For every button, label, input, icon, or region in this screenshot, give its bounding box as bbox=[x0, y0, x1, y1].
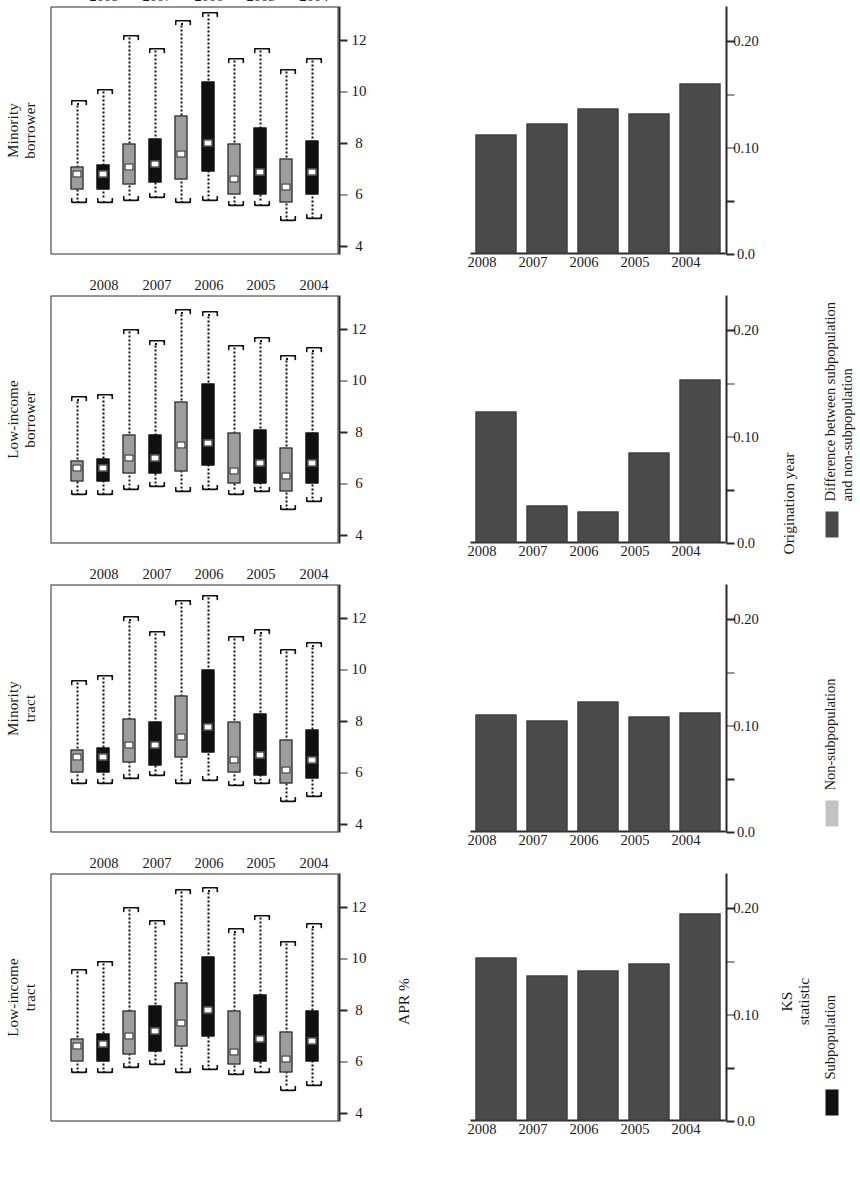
bar-year-label-2008: 2008 bbox=[467, 254, 496, 271]
whisker-cap-low bbox=[96, 489, 113, 495]
median-marker bbox=[176, 150, 185, 157]
median-marker bbox=[307, 459, 316, 466]
boxplot-non-subpopulation-2005 bbox=[227, 6, 240, 254]
box-axis-tick bbox=[339, 91, 347, 93]
bar-axis-tick bbox=[726, 831, 734, 833]
panel-frame bbox=[50, 584, 338, 832]
boxplot-panel-low-income-tract: Low-incometract1210864200420052006200720… bbox=[50, 873, 338, 1121]
panel-title-minority-borrower: Minorityborrower bbox=[4, 6, 38, 254]
whisker-cap-low bbox=[227, 780, 244, 786]
box-axis-tick bbox=[339, 617, 347, 619]
bar-axis-tick bbox=[726, 200, 734, 202]
whisker-cap-high bbox=[96, 674, 113, 680]
boxplot-non-subpopulation-2007 bbox=[122, 295, 135, 543]
box-axis-tick bbox=[339, 328, 347, 330]
bar-year-label-2005: 2005 bbox=[620, 832, 649, 849]
whisker-cap-high bbox=[148, 630, 165, 636]
bar-year-label-2006: 2006 bbox=[569, 832, 598, 849]
bar-axis-line bbox=[725, 295, 727, 543]
ks-axis-title: KSstatistic bbox=[777, 877, 811, 1125]
whisker-cap-high bbox=[305, 922, 322, 928]
bar-year-label-2007: 2007 bbox=[518, 1121, 547, 1138]
boxplot-subpopulation-2005 bbox=[253, 6, 266, 254]
median-marker bbox=[124, 454, 133, 461]
whisker-cap-high bbox=[122, 34, 139, 40]
box-iqr bbox=[174, 115, 187, 179]
year-label-2007: 2007 bbox=[142, 277, 171, 294]
box-iqr bbox=[201, 81, 214, 171]
apr-axis-title: APR % bbox=[394, 877, 411, 1125]
box-iqr bbox=[253, 127, 266, 194]
box-axis-tick bbox=[339, 380, 347, 382]
origination-year-axis-title: Origination year bbox=[779, 403, 796, 603]
median-marker bbox=[203, 139, 212, 146]
year-label-2008: 2008 bbox=[89, 0, 118, 5]
boxplot-non-subpopulation-2004 bbox=[279, 295, 292, 543]
bar-axis-tick-label: 0.0 bbox=[736, 1113, 754, 1130]
bar-2004 bbox=[679, 83, 720, 253]
whisker-cap-high bbox=[122, 615, 139, 621]
whisker-cap-high bbox=[96, 961, 113, 967]
bar-panel-low-income-tract: 0.00.100.2020042005200620072008 bbox=[470, 873, 725, 1121]
boxplot-subpopulation-2007 bbox=[148, 6, 161, 254]
bar-year-label-2006: 2006 bbox=[569, 543, 598, 560]
whisker-cap-low bbox=[96, 778, 113, 784]
whisker-cap-high bbox=[201, 886, 218, 892]
boxplot-subpopulation-2005 bbox=[253, 295, 266, 543]
median-marker bbox=[307, 1037, 316, 1044]
median-marker bbox=[98, 753, 107, 760]
year-label-2004: 2004 bbox=[299, 277, 328, 294]
whisker-cap-high bbox=[279, 940, 296, 946]
bar-2005 bbox=[628, 452, 669, 542]
box-axis-tick-label: 10 bbox=[351, 950, 366, 967]
box-iqr bbox=[253, 713, 266, 775]
whisker-cap-low bbox=[253, 486, 270, 492]
whisker-cap-low bbox=[174, 197, 191, 203]
box-axis-tick-label: 4 bbox=[355, 527, 363, 544]
median-marker bbox=[307, 756, 316, 763]
bar-2006 bbox=[577, 511, 618, 542]
whisker-cap-low bbox=[70, 778, 87, 784]
bar-2007 bbox=[526, 123, 567, 253]
box-iqr bbox=[174, 982, 187, 1046]
year-label-2005: 2005 bbox=[246, 277, 275, 294]
box-axis-tick bbox=[339, 142, 347, 144]
whisker-cap-high bbox=[96, 88, 113, 94]
whisker-cap-low bbox=[279, 504, 296, 510]
whisker-cap-low bbox=[148, 1059, 165, 1065]
year-label-2004: 2004 bbox=[299, 566, 328, 583]
boxplot-non-subpopulation-2006 bbox=[174, 295, 187, 543]
whisker-cap-low bbox=[253, 200, 270, 206]
box-axis-tick bbox=[339, 39, 347, 41]
boxplot-non-subpopulation-2008 bbox=[70, 873, 83, 1121]
box-axis-tick bbox=[339, 669, 347, 671]
boxplot-panel-low-income-borrower: Low-incomeborrower1210864200420052006200… bbox=[50, 295, 338, 543]
whisker-cap-low bbox=[148, 192, 165, 198]
median-marker bbox=[72, 170, 81, 177]
whisker-cap-high bbox=[253, 628, 270, 634]
bar-year-label-2004: 2004 bbox=[671, 543, 700, 560]
box-axis-tick-label: 12 bbox=[351, 320, 366, 337]
median-marker bbox=[203, 439, 212, 446]
boxplot-non-subpopulation-2004 bbox=[279, 6, 292, 254]
bar-2008 bbox=[475, 957, 516, 1120]
median-marker bbox=[124, 741, 133, 748]
median-marker bbox=[72, 753, 81, 760]
whisker-cap-low bbox=[201, 195, 218, 201]
panel-title-line1: Low-income bbox=[4, 295, 21, 543]
box-axis-tick-label: 10 bbox=[351, 372, 366, 389]
whisker-cap-low bbox=[279, 215, 296, 221]
bar-axis-tick bbox=[726, 778, 734, 780]
boxplot-subpopulation-2005 bbox=[253, 584, 266, 832]
legend-label-diff: Difference between subpopulationand non-… bbox=[821, 302, 855, 501]
bar-year-label-2006: 2006 bbox=[569, 254, 598, 271]
panel-title-low-income-tract: Low-incometract bbox=[4, 873, 38, 1121]
box-axis-tick bbox=[339, 1112, 347, 1114]
box-axis-tick-label: 10 bbox=[351, 83, 366, 100]
whisker-cap-low bbox=[227, 1069, 244, 1075]
bar-2007 bbox=[526, 505, 567, 542]
box-axis-line bbox=[338, 584, 340, 832]
box-iqr bbox=[174, 695, 187, 757]
whisker-cap-low bbox=[70, 1067, 87, 1073]
median-marker bbox=[255, 459, 264, 466]
